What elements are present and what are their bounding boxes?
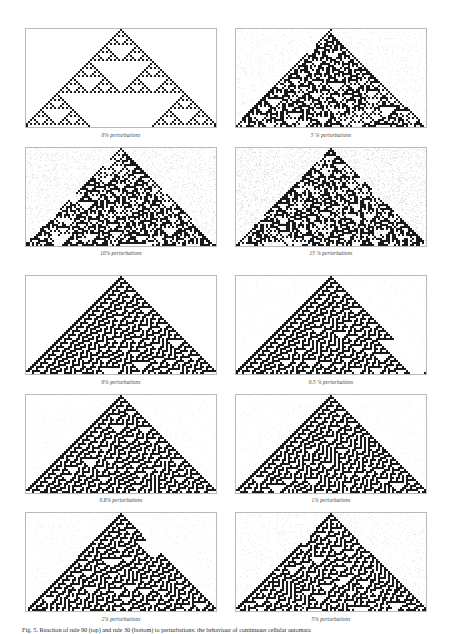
panel-caption: 0.5 % perturbations [309,379,354,386]
ca-panel-rule-90 [235,28,427,128]
ca-canvas [26,276,216,374]
ca-panel-rule-90 [25,147,217,247]
panel-row: 0% perturbations0.5 % perturbations [0,275,452,386]
panel-cell: 0.5 % perturbations [234,275,428,386]
panel-cell: 10% perturbations [24,147,218,258]
ca-canvas [236,513,426,611]
panel-cell: 2% perturbations [24,512,218,623]
panel-cell: 5 % perturbations [234,28,428,139]
panel-row: 2% perturbations5% perturbations [0,512,452,623]
ca-panel-rule-30 [25,275,217,375]
ca-panel-rule-30 [25,512,217,612]
row-spacer [0,504,452,512]
ca-canvas [26,148,216,246]
panel-caption: 0% perturbations [102,379,141,386]
panel-cell: 1% perturbations [234,394,428,505]
panel-caption: 2% perturbations [102,616,141,623]
ca-panel-rule-90 [235,147,427,247]
panel-caption: 1% perturbations [312,497,351,504]
panel-caption: 10% perturbations [100,250,142,257]
ca-canvas [236,29,426,127]
panel-cell: 0.8% perturbations [24,394,218,505]
panel-cell: 5% perturbations [234,512,428,623]
ca-panel-rule-30 [235,512,427,612]
figure-caption: Fig. 5. Reaction of rule 90 (top) and ru… [22,626,432,634]
panel-cell: 0% perturbations [24,28,218,139]
ca-canvas [236,276,426,374]
panel-caption: 0% perturbations [102,132,141,139]
panel-row: 0% perturbations5 % perturbations [0,28,452,139]
row-spacer [0,139,452,147]
figure-ca-perturbations: 0% perturbations5 % perturbations10% per… [0,0,452,634]
ca-canvas [26,29,216,127]
row-spacer [0,386,452,394]
row-spacer [0,257,452,275]
ca-canvas [236,148,426,246]
ca-panel-rule-30 [25,394,217,494]
panel-cell: 15 % perturbations [234,147,428,258]
ca-canvas [26,395,216,493]
panel-caption: 0.8% perturbations [99,497,142,504]
panel-caption: 15 % perturbations [309,250,352,257]
panel-cell: 0% perturbations [24,275,218,386]
panel-caption: 5 % perturbations [311,132,351,139]
panel-row: 0.8% perturbations1% perturbations [0,394,452,505]
ca-panel-rule-30 [235,275,427,375]
panel-grid: 0% perturbations5 % perturbations10% per… [0,28,452,623]
ca-panel-rule-90 [25,28,217,128]
panel-row: 10% perturbations15 % perturbations [0,147,452,258]
ca-panel-rule-30 [235,394,427,494]
ca-canvas [236,395,426,493]
ca-canvas [26,513,216,611]
panel-caption: 5% perturbations [312,616,351,623]
